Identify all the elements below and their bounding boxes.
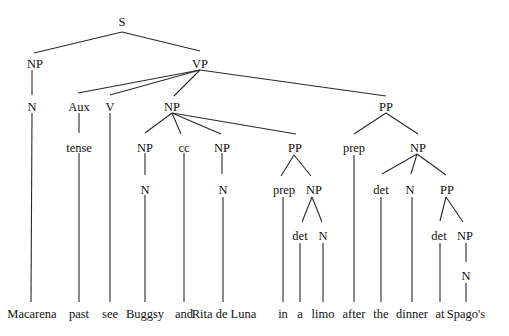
node-n: N <box>140 183 149 197</box>
tree-leaf-words: MacarenapastseeBuggsyandRita de Lunainal… <box>7 307 485 321</box>
node-n: N <box>218 183 227 197</box>
node-np: NP <box>214 141 230 155</box>
node-pp: PP <box>288 141 302 155</box>
tree-edges <box>31 32 466 302</box>
node-prep: prep <box>273 183 295 197</box>
edge-S-NP <box>34 32 122 53</box>
node-np: NP <box>27 57 43 71</box>
node-np: NP <box>164 100 180 114</box>
edge-PP-prep <box>281 155 294 176</box>
edge-PP-NP <box>294 155 311 176</box>
node-pp: PP <box>379 100 393 114</box>
edge-PP-NP-dinner <box>386 113 418 134</box>
node-n: N <box>27 100 36 114</box>
node-det: det <box>292 229 308 243</box>
node-np: NP <box>410 141 426 155</box>
node-cc: cc <box>178 141 190 155</box>
edge-NP-NP-left <box>145 113 172 133</box>
node-det: det <box>431 229 447 243</box>
node-s: S <box>119 15 126 29</box>
leaf-word: in <box>278 307 288 321</box>
edge-PP-NP-spago <box>446 197 463 222</box>
node-pp: PP <box>440 183 454 197</box>
node-v: V <box>105 100 114 114</box>
node-vp: VP <box>192 57 208 71</box>
leaf-word: at <box>435 307 445 321</box>
leaf-word: after <box>343 307 367 321</box>
node-tense: tense <box>66 141 92 155</box>
parse-tree-diagram: SNPVPNAuxVNPPPtenseNPccNPPPprepNPNNprepN… <box>0 0 509 336</box>
node-np: NP <box>137 141 153 155</box>
edge-NP-det <box>302 197 312 222</box>
node-np: NP <box>457 229 473 243</box>
leaf-word: dinner <box>396 307 429 321</box>
node-np: NP <box>306 183 322 197</box>
leaf-word: Spago's <box>447 307 486 321</box>
edge-NP-PP-at <box>417 154 446 175</box>
leaf-word: Buggsy <box>126 307 165 321</box>
node-n: N <box>461 269 470 283</box>
node-det: det <box>373 183 389 197</box>
edge-S-VP <box>122 32 200 51</box>
edge-VP-PP <box>200 70 386 96</box>
node-prep: prep <box>343 141 365 155</box>
leaf-word: Rita de Luna <box>192 307 257 321</box>
leaf-word: the <box>373 307 389 321</box>
node-n: N <box>318 229 327 243</box>
node-n: N <box>405 183 414 197</box>
leaf-word: past <box>69 307 90 321</box>
leaf-word: see <box>102 307 118 321</box>
edge-NP-PP <box>172 113 296 134</box>
edge-PP-det-at <box>440 197 446 221</box>
edge-N-Macarena <box>31 113 32 302</box>
tree-nodes: SNPVPNAuxVNPPPtenseNPccNPPPprepNPNNprepN… <box>27 15 473 283</box>
node-aux: Aux <box>68 100 90 114</box>
leaf-word: limo <box>312 307 335 321</box>
edge-PP-prep-after <box>354 113 386 134</box>
leaf-word: Macarena <box>7 307 57 321</box>
edge-VP-V <box>110 70 200 95</box>
edge-NP-N-limo <box>312 197 322 222</box>
edge-VP-Aux <box>78 70 200 93</box>
leaf-word: a <box>297 307 303 321</box>
